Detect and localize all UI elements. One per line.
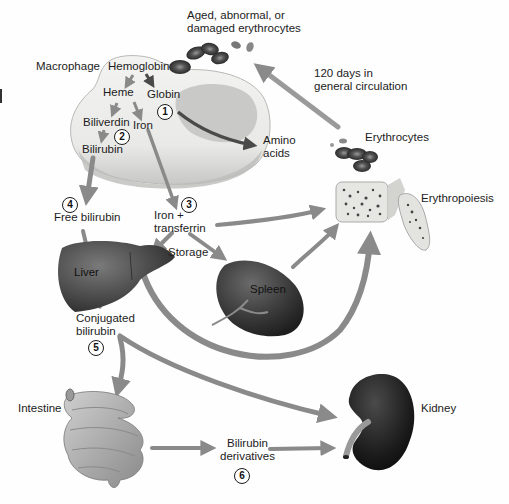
label-conjugated-line1: Conjugated <box>76 312 135 325</box>
label-iron-transferrin-line1: Iron + <box>154 209 206 222</box>
label-circulation-line1: 120 days in <box>314 67 407 80</box>
step-5-badge: 5 <box>88 340 104 356</box>
label-120-days: 120 days in general circulation <box>314 67 407 93</box>
label-derivatives-line1: Bilirubin <box>220 437 275 450</box>
intestine-organ <box>64 389 143 488</box>
bone-marrow <box>336 178 430 250</box>
label-conjugated-bilirubin: Conjugated bilirubin <box>76 312 135 338</box>
label-macrophage: Macrophage <box>36 60 100 73</box>
label-conjugated-line2: bilirubin <box>76 325 135 338</box>
edge-mark <box>0 89 2 103</box>
label-free-bilirubin: Free bilirubin <box>54 211 120 224</box>
diagram-artwork <box>0 0 509 504</box>
label-amino-acids: Amino acids <box>263 134 296 160</box>
step-6-badge: 6 <box>234 468 250 484</box>
label-circulation-line2: general circulation <box>314 80 407 93</box>
label-amino-line1: Amino <box>263 134 296 147</box>
label-kidney: Kidney <box>421 402 456 415</box>
label-liver: Liver <box>74 266 99 279</box>
label-storage: Storage <box>168 246 208 259</box>
label-heme: Heme <box>103 86 134 99</box>
label-aged-erythrocytes: Aged, abnormal, or damaged erythrocytes <box>187 9 301 35</box>
label-aged-line2: damaged erythrocytes <box>187 22 301 35</box>
label-bilirubin-derivatives: Bilirubin derivatives <box>220 437 275 463</box>
label-erythropoiesis: Erythropoiesis <box>421 192 494 205</box>
label-iron-transferrin: Iron + transferrin <box>154 209 206 235</box>
label-globin: Globin <box>147 88 180 101</box>
label-aged-line1: Aged, abnormal, or <box>187 9 301 22</box>
label-bilirubin: Bilirubin <box>82 143 123 156</box>
label-hemoglobin: Hemoglobin <box>108 60 169 73</box>
spleen-organ <box>212 261 304 337</box>
label-erythrocytes: Erythrocytes <box>365 131 429 144</box>
aged-erythrocytes-cluster <box>169 40 255 74</box>
label-iron: Iron <box>133 119 153 132</box>
step-1-badge: 1 <box>157 104 173 120</box>
label-derivatives-line2: derivatives <box>220 450 275 463</box>
label-spleen: Spleen <box>250 283 286 296</box>
label-intestine: Intestine <box>18 402 61 415</box>
kidney-organ <box>343 374 414 470</box>
label-biliverdin: Biliverdin <box>83 116 130 129</box>
diagram-canvas: Aged, abnormal, or damaged erythrocytes … <box>0 0 509 504</box>
label-iron-transferrin-line2: transferrin <box>154 222 206 235</box>
label-amino-line2: acids <box>263 147 296 160</box>
